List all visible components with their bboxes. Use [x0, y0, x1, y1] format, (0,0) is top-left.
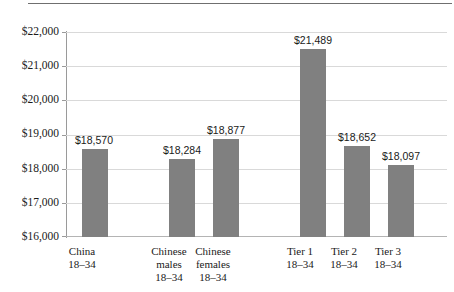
bar-china-18-34[interactable] — [82, 149, 108, 237]
bar-value-label-chinese-females-18-34: $18,877 — [195, 125, 257, 136]
bar-value-label-tier-2-18-34: $18,652 — [326, 132, 388, 143]
tick-mark-16000 — [62, 236, 66, 237]
bar-chinese-males-18-34[interactable] — [169, 159, 195, 237]
bar-chart-figure: $22,000 $21,000 $20,000 $19,000 $18,000 … — [0, 0, 454, 292]
tick-mark-20000 — [62, 100, 66, 101]
x-axis-category-label-chinese-females-18-34: Chinese females 18–34 — [184, 245, 242, 284]
tick-mark-22000 — [62, 32, 66, 33]
category-line-3: 18–34 — [184, 271, 242, 284]
bar-tier-2-18-34[interactable] — [344, 146, 370, 237]
y-axis-tick-label-22000: $22,000 — [0, 26, 59, 38]
y-axis-tick-label-17000: $17,000 — [0, 197, 59, 209]
category-line-1: Chinese — [184, 245, 242, 258]
gridline-21000 — [66, 66, 447, 67]
tick-mark-18000 — [62, 169, 66, 170]
category-line-2: 18–34 — [53, 258, 111, 271]
bar-chinese-females-18-34[interactable] — [213, 139, 239, 237]
y-axis-tick-label-18000: $18,000 — [0, 163, 59, 175]
tick-mark-17000 — [62, 203, 66, 204]
category-line-2: females — [184, 258, 242, 271]
category-line-1: Tier 3 — [359, 245, 417, 258]
gridline-20000 — [66, 100, 447, 101]
gridline-22000 — [66, 32, 447, 33]
y-axis-tick-label-19000: $19,000 — [0, 128, 59, 140]
bar-tier-3-18-34[interactable] — [388, 165, 414, 237]
y-axis-tick-label-20000: $20,000 — [0, 94, 59, 106]
top-divider-rule — [28, 3, 452, 4]
bar-value-label-chinese-males-18-34: $18,284 — [151, 145, 213, 156]
bar-value-label-tier-1-18-34: $21,489 — [282, 35, 344, 46]
category-line-2: 18–34 — [359, 258, 417, 271]
x-axis-category-label-tier-3-18-34: Tier 3 18–34 — [359, 245, 417, 271]
tick-mark-21000 — [62, 66, 66, 67]
plot-area: $18,570 $18,284 $18,877 $21,489 $18,652 … — [66, 32, 447, 237]
bar-value-label-china-18-34: $18,570 — [63, 135, 125, 146]
category-line-1: China — [53, 245, 111, 258]
bar-value-label-tier-3-18-34: $18,097 — [370, 151, 432, 162]
x-axis-category-label-china-18-34: China 18–34 — [53, 245, 111, 271]
bar-tier-1-18-34[interactable] — [300, 49, 326, 237]
y-axis-tick-label-21000: $21,000 — [0, 60, 59, 72]
y-axis-tick-label-16000: $16,000 — [0, 231, 59, 243]
